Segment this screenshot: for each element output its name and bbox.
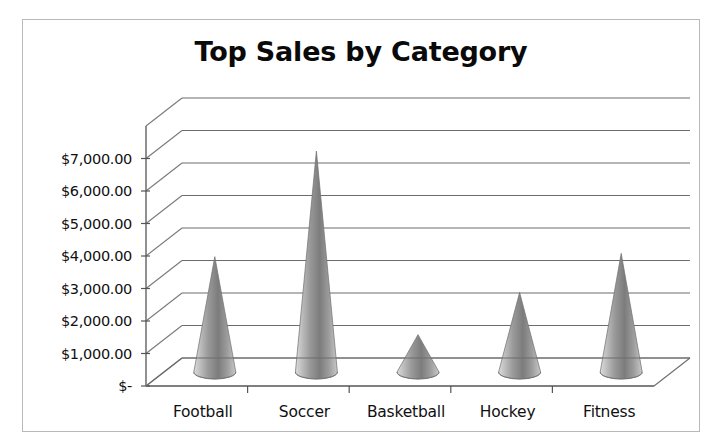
x-axis-tick-label: Soccer	[279, 403, 331, 421]
cone-bar	[397, 335, 439, 379]
cone-bar	[194, 257, 236, 379]
gridline-depth-connector	[146, 131, 182, 159]
y-axis-tick-labels: $-$1,000.00$2,000.00$3,000.00$4,000.00$5…	[61, 151, 150, 395]
y-axis-tick-label: $3,000.00	[61, 281, 132, 297]
y-axis-tick-label: $4,000.00	[61, 248, 132, 264]
x-axis-tick-label: Football	[173, 403, 233, 421]
cone-bars-group	[194, 151, 642, 379]
cone-bar	[499, 292, 541, 379]
chart-frame: Top Sales by Category $-$1,000.00$2,000.…	[22, 19, 700, 432]
y-axis-tick-label: $-	[118, 378, 132, 394]
gridline-depth-connector	[146, 293, 182, 321]
y-axis-tick-label: $7,000.00	[61, 151, 132, 167]
y-axis-tick-label: $5,000.00	[61, 216, 132, 232]
cone-bar	[295, 151, 337, 379]
gridline-depth-connector	[146, 228, 182, 256]
floor-left-edge	[146, 358, 182, 386]
gridline-depth-connector	[146, 261, 182, 289]
floor-right-edge	[654, 358, 690, 386]
y-axis-tick-label: $1,000.00	[61, 346, 132, 362]
gridline-depth-connector	[146, 196, 182, 224]
cone-bar	[600, 253, 642, 379]
x-axis-tick-label: Basketball	[367, 403, 445, 421]
y-axis-tick-label: $2,000.00	[61, 313, 132, 329]
x-axis-tick-label: Hockey	[480, 403, 536, 421]
x-axis-tick-label: Fitness	[583, 403, 635, 421]
gridline-depth-connector	[146, 98, 182, 126]
x-axis-tick-labels: FootballSoccerBasketballHockeyFitness	[173, 403, 636, 421]
gridline-depth-connector	[146, 326, 182, 354]
chart-plot-area: $-$1,000.00$2,000.00$3,000.00$4,000.00$5…	[23, 20, 701, 433]
gridline-depth-connector	[146, 163, 182, 191]
y-axis-tick-label: $6,000.00	[61, 183, 132, 199]
